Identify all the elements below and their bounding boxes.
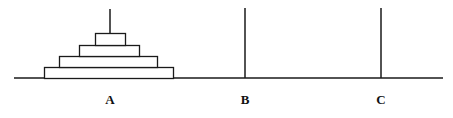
disc-3-medium[interactable]: [80, 46, 140, 57]
disc-4-smallest[interactable]: [96, 34, 126, 46]
peg-label-b: B: [233, 93, 257, 106]
peg-label-a: A: [98, 93, 122, 106]
disc-2-large[interactable]: [60, 57, 158, 68]
tower-of-hanoi-figure: ABC: [0, 0, 453, 118]
disc-1-largest[interactable]: [45, 68, 174, 79]
peg-label-c: C: [369, 93, 393, 106]
